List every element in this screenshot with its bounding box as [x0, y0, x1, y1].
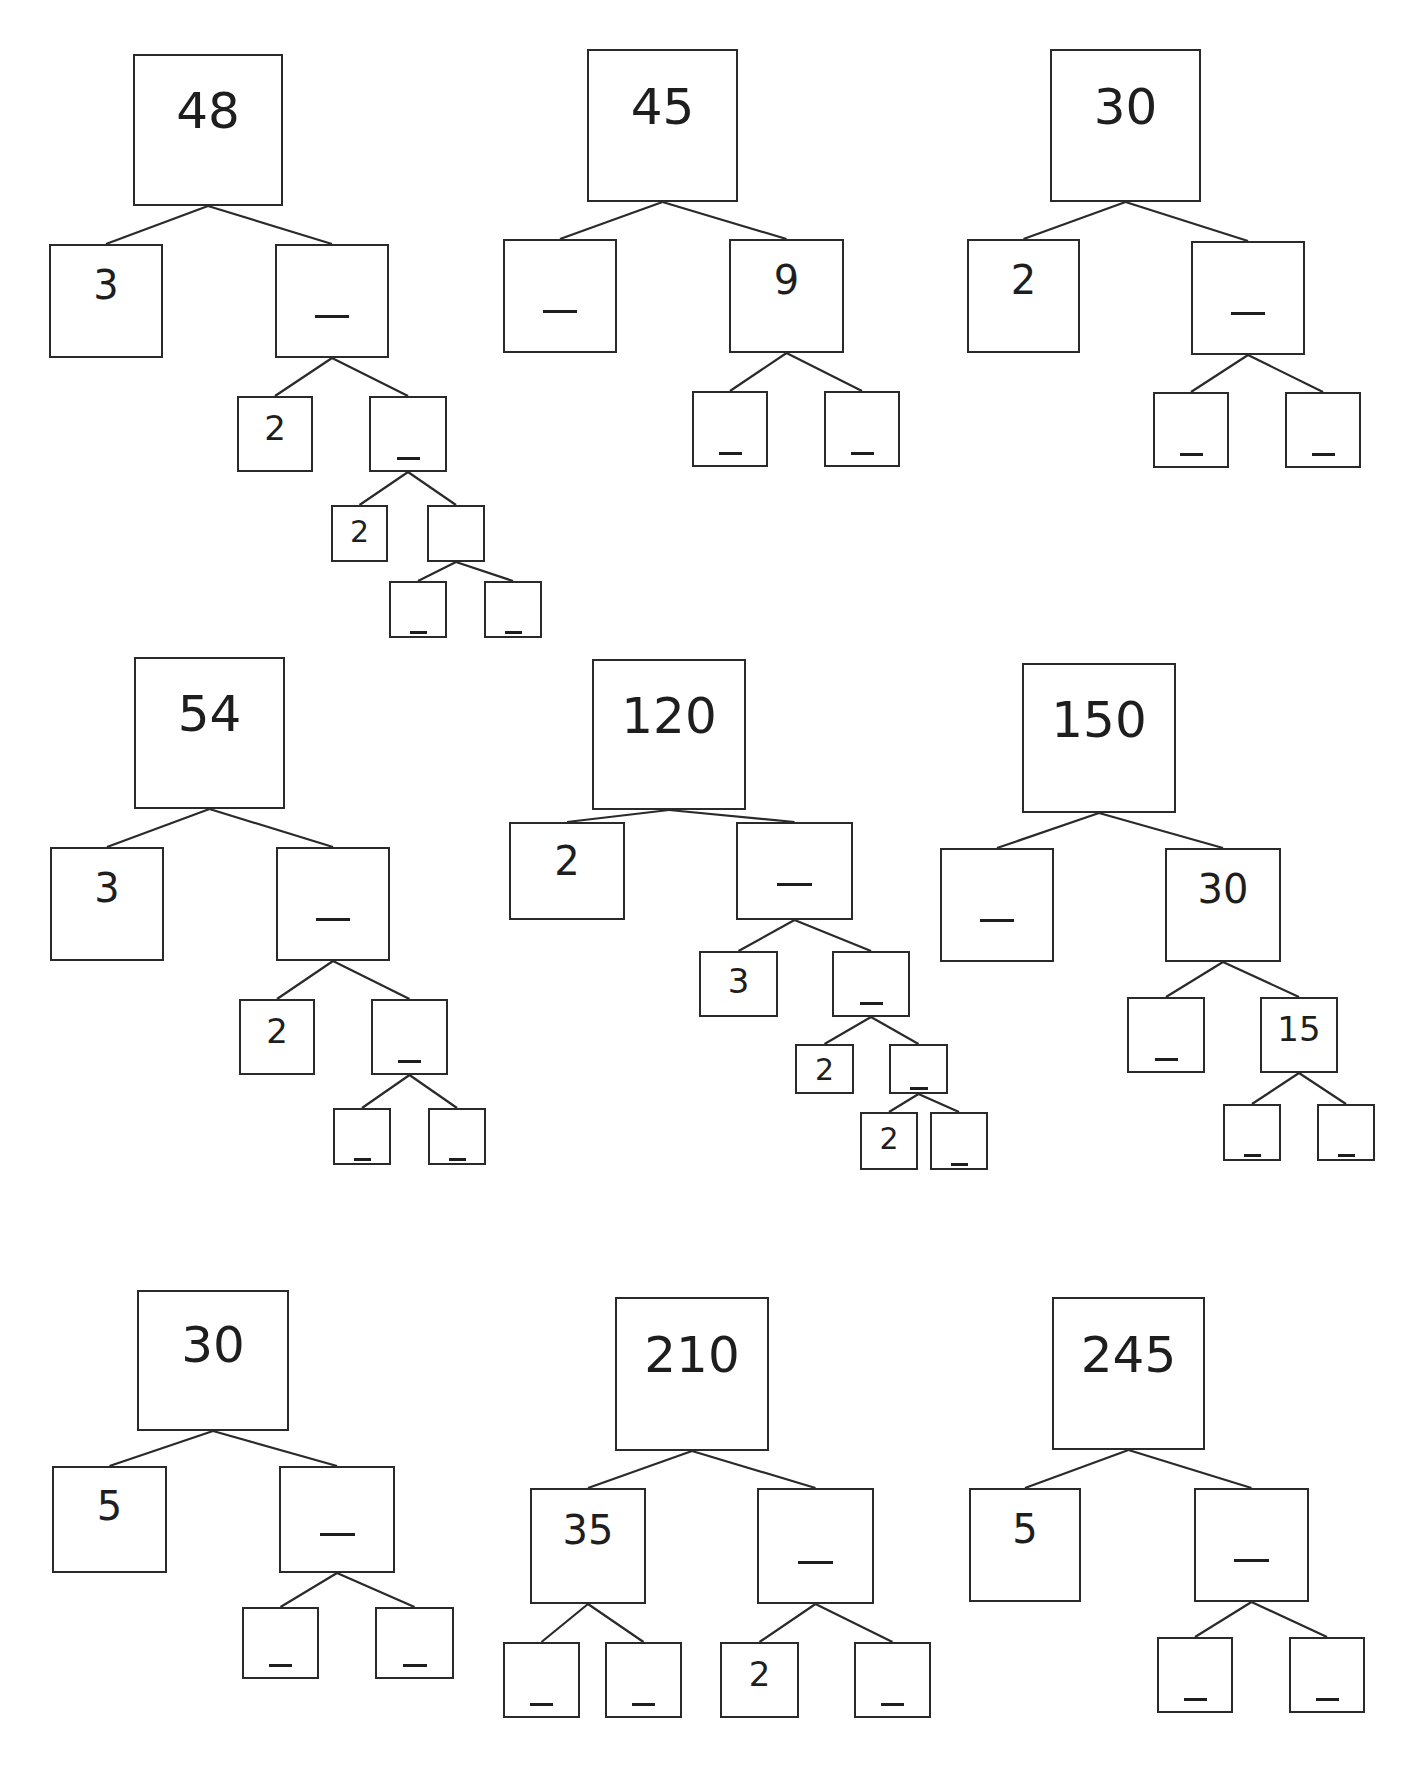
blank-factor-box[interactable] [503, 1642, 580, 1718]
factor-value: 15 [1277, 1012, 1320, 1046]
branch-line [588, 1604, 644, 1642]
factor-value: 2 [1011, 260, 1036, 300]
blank-factor-box[interactable] [1157, 1637, 1233, 1713]
blank-factor-box[interactable] [369, 396, 447, 472]
blank-factor-box[interactable] [1194, 1488, 1309, 1602]
branch-line [542, 1604, 589, 1642]
blank-factor-box[interactable] [889, 1044, 948, 1094]
blank-factor-box[interactable] [276, 847, 390, 961]
blank-factor-box[interactable] [503, 239, 617, 353]
blank-factor-box[interactable] [832, 951, 910, 1017]
factor-value: 2 [554, 841, 579, 881]
answer-blank [1316, 1698, 1339, 1701]
answer-blank [1184, 1698, 1207, 1701]
factor-value: 35 [563, 1510, 614, 1550]
branch-line [210, 809, 334, 847]
blank-factor-box[interactable] [1317, 1104, 1375, 1161]
root-number-box: 150 [1022, 663, 1176, 813]
factor-box: 3 [49, 244, 163, 358]
factor-value: 2 [815, 1055, 834, 1085]
answer-blank [403, 1664, 427, 1667]
factor-value: 2 [749, 1657, 771, 1691]
branch-line [1129, 1450, 1252, 1488]
blank-factor-box[interactable] [692, 391, 768, 467]
branch-line [1252, 1602, 1328, 1637]
factor-tree-worksheet: 4832245930254321202322150301530521035224… [0, 0, 1427, 1768]
factor-value: 30 [181, 1320, 245, 1370]
answer-blank [397, 457, 420, 460]
blank-factor-box[interactable] [1223, 1104, 1281, 1161]
answer-blank [1244, 1154, 1261, 1157]
branch-line [1166, 962, 1223, 997]
factor-value: 5 [97, 1486, 122, 1526]
blank-factor-box[interactable] [484, 581, 542, 638]
answer-blank [1180, 453, 1203, 456]
branch-line [106, 206, 208, 244]
blank-factor-box[interactable] [1153, 392, 1229, 468]
factor-value: 210 [644, 1330, 739, 1380]
factor-value: 30 [1094, 82, 1158, 132]
root-number-box: 245 [1052, 1297, 1205, 1450]
blank-factor-box[interactable] [242, 1607, 319, 1679]
answer-blank [1312, 453, 1335, 456]
answer-blank [719, 452, 742, 455]
blank-factor-box[interactable] [1191, 241, 1305, 355]
blank-factor-box[interactable] [1127, 997, 1205, 1073]
branch-line [795, 920, 872, 951]
factor-box: 2 [720, 1642, 799, 1718]
blank-factor-box[interactable] [375, 1607, 454, 1679]
branch-line [816, 1604, 893, 1642]
branch-line [669, 810, 795, 822]
answer-blank [354, 1158, 371, 1161]
branch-line [1252, 1073, 1299, 1104]
root-number-box: 120 [592, 659, 746, 810]
answer-blank [315, 315, 349, 318]
answer-blank [410, 631, 427, 634]
branch-line [567, 810, 669, 822]
factor-box: 2 [509, 822, 625, 920]
answer-blank [910, 1087, 928, 1090]
blank-factor-box[interactable] [428, 1108, 486, 1165]
blank-factor-box[interactable] [279, 1466, 395, 1573]
factor-value: 245 [1081, 1330, 1176, 1380]
answer-blank [505, 631, 522, 634]
blank-factor-box[interactable] [1289, 1637, 1365, 1713]
branch-line [663, 202, 787, 239]
factor-box: 5 [52, 1466, 167, 1573]
factor-box: 2 [237, 396, 313, 472]
branch-line [997, 813, 1099, 848]
branch-line [692, 1451, 816, 1488]
factor-box: 5 [969, 1488, 1081, 1602]
blank-factor-box[interactable] [333, 1108, 391, 1165]
blank-factor-box[interactable] [854, 1642, 931, 1718]
answer-blank [269, 1664, 292, 1667]
answer-blank [316, 918, 350, 921]
root-number-box: 48 [133, 54, 283, 206]
answer-blank [1234, 1559, 1269, 1562]
answer-blank [1231, 312, 1265, 315]
factor-value: 9 [774, 260, 799, 300]
answer-blank [543, 310, 577, 313]
root-number-box: 210 [615, 1297, 769, 1451]
branch-line [332, 358, 408, 396]
answer-blank [398, 1060, 421, 1063]
blank-factor-box[interactable] [824, 391, 900, 467]
blank-factor-box[interactable] [389, 581, 447, 638]
branch-line [1195, 1602, 1252, 1637]
blank-factor-box[interactable] [371, 999, 448, 1075]
root-number-box: 45 [587, 49, 738, 202]
blank-factor-box[interactable] [427, 505, 485, 562]
branch-line [275, 358, 332, 396]
answer-blank [951, 1163, 968, 1166]
answer-blank [860, 1002, 883, 1005]
blank-factor-box[interactable] [757, 1488, 874, 1604]
factor-value: 54 [178, 689, 242, 739]
blank-factor-box[interactable] [930, 1112, 988, 1170]
answer-blank [632, 1703, 655, 1706]
blank-factor-box[interactable] [275, 244, 389, 358]
blank-factor-box[interactable] [1285, 392, 1361, 468]
blank-factor-box[interactable] [605, 1642, 682, 1718]
branch-line [208, 206, 332, 244]
blank-factor-box[interactable] [940, 848, 1054, 962]
blank-factor-box[interactable] [736, 822, 853, 920]
